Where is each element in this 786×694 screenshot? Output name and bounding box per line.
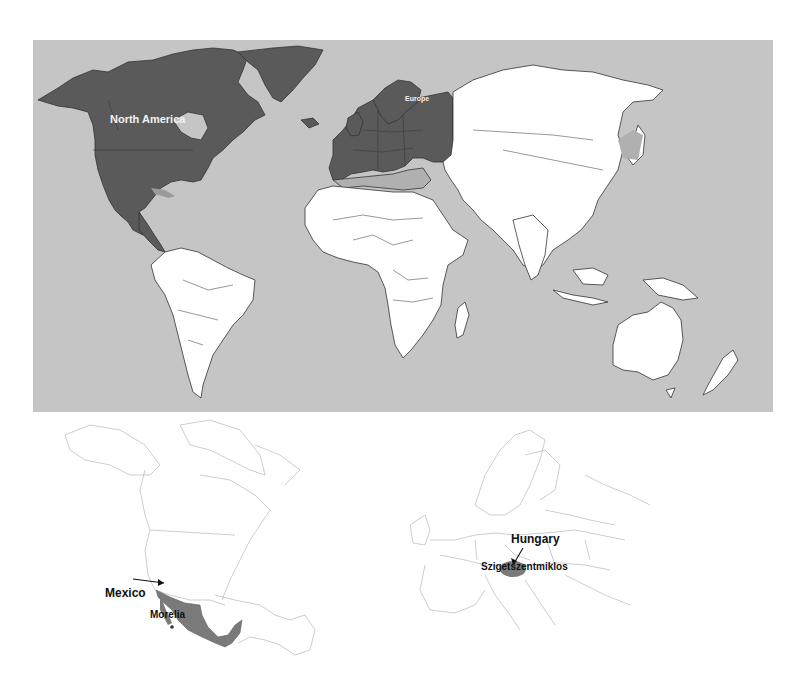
world-map-shapes: [33, 40, 773, 412]
morelia-marker: [170, 625, 174, 629]
inset-north-america-shapes: [60, 415, 350, 680]
region-asia: [443, 65, 663, 270]
label-europe: Europe: [405, 95, 429, 102]
region-greenland: [238, 46, 323, 102]
region-north-america: [38, 48, 265, 235]
inset-map-europe: Hungary Szigetszentmiklos: [385, 415, 655, 645]
label-szigetszentmiklos: Szigetszentmiklos: [481, 561, 568, 572]
region-south-america: [151, 248, 255, 398]
region-australia: [613, 302, 683, 380]
region-africa: [305, 186, 468, 358]
world-map: North America Europe: [33, 40, 773, 412]
label-mexico: Mexico: [105, 586, 146, 600]
inset-map-north-america: Mexico Morelia: [60, 415, 350, 680]
inset-europe-shapes: [385, 415, 655, 645]
label-morelia: Morelia: [150, 609, 185, 620]
label-north-america: North America: [110, 113, 185, 125]
label-hungary: Hungary: [511, 532, 560, 546]
